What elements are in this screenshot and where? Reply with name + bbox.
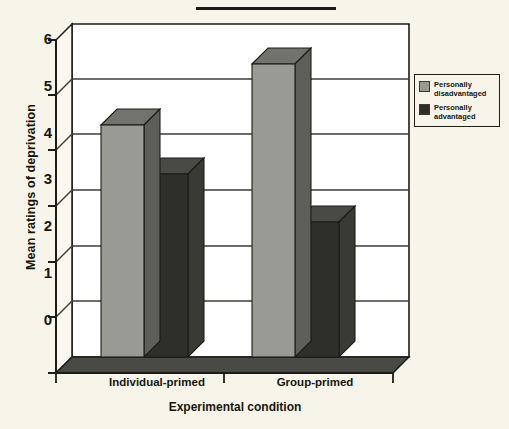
- bar-group-primed-personally-disadvantaged: [252, 48, 311, 357]
- chart-legend: Personally disadvantaged Personally adva…: [414, 74, 500, 127]
- legend-label-personally-advantaged-line1: Personally: [434, 103, 472, 112]
- figure-container: Mean ratings of deprivation Experimental…: [0, 0, 509, 429]
- legend-swatch-personally-advantaged: [419, 104, 430, 115]
- plot-floor-slab: [56, 357, 409, 373]
- legend-label-personally-disadvantaged-line1: Personally: [434, 80, 472, 89]
- legend-item-personally-advantaged[interactable]: Personally advantaged: [419, 103, 495, 121]
- legend-label-personally-disadvantaged-line2: disadvantaged: [434, 89, 486, 98]
- legend-item-personally-disadvantaged[interactable]: Personally disadvantaged: [419, 80, 495, 98]
- bar-chart-plot: [0, 0, 509, 429]
- legend-swatch-personally-disadvantaged: [419, 81, 430, 92]
- legend-label-personally-advantaged-line2: advantaged: [434, 112, 476, 121]
- bar-individual-primed-personally-disadvantaged: [101, 109, 160, 357]
